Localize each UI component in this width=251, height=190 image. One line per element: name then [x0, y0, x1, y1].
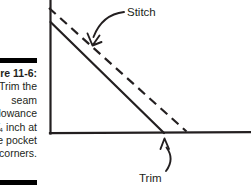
trim-arrowhead	[161, 139, 170, 150]
stitch-arrow-leader	[94, 12, 125, 37]
annotation-label-stitch: Stitch	[127, 6, 156, 18]
horizontal-edge-line	[50, 132, 251, 133]
cut-edge-line	[51, 22, 165, 133]
trim-arrow-leader	[166, 148, 171, 172]
stitch-dashed-line	[49, 8, 187, 132]
figure-panel: ure 11-6: Trim the seam lowance ⁄₄ inch …	[0, 0, 251, 190]
annotation-label-trim: Trim	[139, 172, 162, 184]
pocket-corner-diagram	[0, 0, 251, 190]
